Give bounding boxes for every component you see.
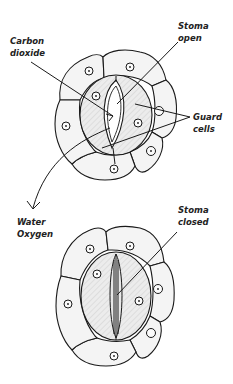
open-stoma-figure xyxy=(27,42,190,209)
closed-stoma-figure xyxy=(56,226,177,366)
label-stoma-open: Stoma open xyxy=(178,20,209,44)
label-carbon-dioxide: Carbon dioxide xyxy=(10,35,45,59)
label-water-oxygen: Water Oxygen xyxy=(17,216,53,240)
label-stoma-closed: Stoma closed xyxy=(178,204,209,228)
epidermal-cell-right xyxy=(150,262,174,322)
label-guard-cells: Guard cells xyxy=(193,111,222,135)
